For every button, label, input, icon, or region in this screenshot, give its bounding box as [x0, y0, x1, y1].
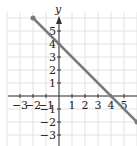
- y-tick-label: 3: [49, 51, 56, 64]
- y-tick-label: −2: [40, 116, 56, 129]
- y-axis-arrow-icon: [56, 16, 62, 24]
- y-tick-label: −1: [40, 103, 56, 116]
- x-tick-label: 3: [95, 99, 102, 112]
- y-tick-label: 1: [49, 77, 56, 90]
- line-graph: −3−2−11234554321−1−2−3y: [0, 0, 137, 146]
- y-tick-label: −3: [40, 129, 56, 142]
- x-tick-label: 4: [108, 99, 115, 112]
- endpoint-dot: [31, 16, 36, 21]
- x-tick-label: 1: [69, 99, 76, 112]
- y-axis-label: y: [54, 3, 62, 16]
- x-tick-label: 2: [82, 99, 89, 112]
- y-tick-label: 2: [49, 64, 56, 77]
